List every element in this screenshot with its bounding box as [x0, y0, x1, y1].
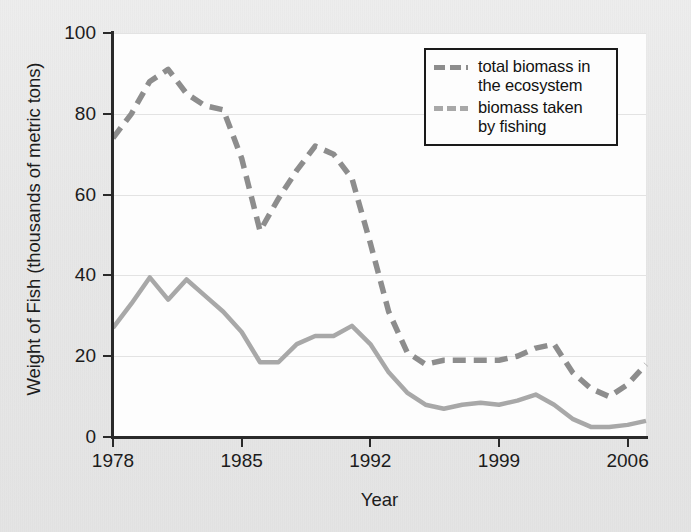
y-tick-label: 60: [40, 184, 96, 206]
y-tick-mark: [103, 194, 113, 196]
line-chart-figure: Weight of Fish (thousands of metric tons…: [0, 0, 691, 532]
x-tick-mark: [369, 437, 371, 447]
x-tick-mark: [241, 437, 243, 447]
y-tick-mark: [103, 32, 113, 34]
x-tick-mark: [627, 437, 629, 447]
x-tick-label: 1999: [459, 450, 539, 472]
legend-item-total-biomass: total biomass inthe ecosystem: [434, 57, 608, 96]
x-axis-line: [111, 436, 648, 439]
legend-swatch-dashed-icon: [434, 65, 468, 70]
y-tick-mark: [103, 274, 113, 276]
y-axis-title: Weight of Fish (thousands of metric tons…: [23, 9, 45, 449]
y-tick-label: 100: [40, 22, 96, 44]
y-axis-line: [111, 31, 114, 439]
x-tick-label: 1978: [73, 450, 153, 472]
legend-item-biomass-taken: biomass takenby fishing: [434, 98, 608, 137]
y-tick-mark: [103, 355, 113, 357]
y-tick-label: 40: [40, 264, 96, 286]
series-line-2: [113, 277, 646, 426]
x-tick-label: 1992: [330, 450, 410, 472]
y-tick-label: 0: [40, 426, 96, 448]
x-tick-label: 2006: [588, 450, 668, 472]
y-tick-mark: [103, 113, 113, 115]
y-tick-label: 20: [40, 345, 96, 367]
x-axis-title: Year: [113, 489, 646, 511]
legend-swatch-solid-icon: [434, 106, 468, 111]
legend-label-biomass-taken: biomass takenby fishing: [478, 98, 582, 137]
legend-label-total-biomass: total biomass inthe ecosystem: [478, 57, 590, 96]
x-tick-mark: [498, 437, 500, 447]
x-tick-mark: [112, 437, 114, 447]
chart-legend: total biomass inthe ecosystem biomass ta…: [424, 48, 618, 146]
x-tick-label: 1985: [202, 450, 282, 472]
y-tick-label: 80: [40, 103, 96, 125]
